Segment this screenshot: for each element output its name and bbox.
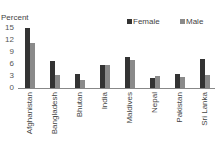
- legend-female: Female: [127, 17, 160, 26]
- female-swatch-icon: [127, 19, 132, 24]
- y-axis-label: Percent: [1, 13, 29, 22]
- bar-male-maldives: [130, 60, 135, 88]
- bar-male-nepal: [155, 76, 160, 88]
- bar-male-india: [105, 65, 110, 88]
- y-tick-15: 15: [0, 24, 14, 32]
- bar-male-pakistan: [180, 77, 185, 88]
- bar-male-afghanistan: [30, 43, 35, 88]
- x-axis-line: [18, 88, 215, 89]
- x-label-maldives: Maldives: [126, 92, 134, 124]
- y-tick-3: 3: [0, 72, 14, 80]
- x-label-bhutan: Bhutan: [76, 92, 84, 117]
- legend-male: Male: [180, 17, 203, 26]
- bar-male-bhutan: [80, 80, 85, 88]
- legend-female-label: Female: [133, 17, 160, 26]
- y-tick-12: 12: [0, 36, 14, 44]
- y-tick-6: 6: [0, 60, 14, 68]
- x-label-india: India: [101, 92, 109, 109]
- x-label-nepal: Nepal: [151, 92, 159, 113]
- x-label-sri-lanka: Sri Lanka: [201, 92, 209, 126]
- legend-male-label: Male: [186, 17, 203, 26]
- y-tick-0: 0: [0, 84, 14, 92]
- x-label-bangladesh: Bangladesh: [51, 92, 59, 134]
- bar-male-sri-lanka: [205, 75, 210, 88]
- x-label-afghanistan: Afghanistan: [26, 92, 34, 134]
- male-swatch-icon: [180, 19, 185, 24]
- y-tick-9: 9: [0, 48, 14, 56]
- bar-male-bangladesh: [55, 75, 60, 88]
- x-label-pakistan: Pakistan: [176, 92, 184, 123]
